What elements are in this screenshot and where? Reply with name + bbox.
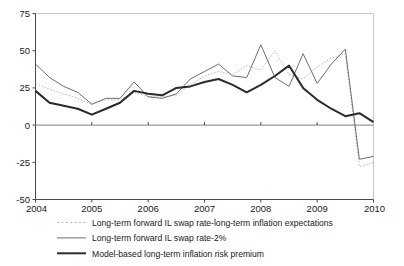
series-line-1 (36, 51, 374, 167)
y-axis: 7550250-25-50 (16, 8, 35, 205)
legend-label-3: Model-based long-term inflation risk pre… (92, 249, 264, 259)
y-tick-label: -25 (16, 157, 30, 168)
legend-label-2: Long-term forward IL swap rate-2% (92, 233, 227, 243)
x-tick-label: 2005 (81, 203, 102, 214)
series-line-2 (36, 45, 374, 160)
y-tick-label: 50 (19, 45, 30, 56)
x-tick-label: 2008 (250, 203, 271, 214)
x-tick-label: 2010 (364, 203, 385, 214)
x-tick-label: 2009 (307, 203, 328, 214)
plot-frame-path (36, 14, 374, 200)
x-tick-label: 2004 (26, 203, 47, 214)
chart-figure: 7550250-25-50 20042005200620072008200920… (0, 0, 404, 266)
x-tick-label: 2007 (194, 203, 215, 214)
legend-label-1: Long-term forward IL swap rate-long-term… (92, 218, 333, 228)
x-tick-labels: 2004200520062007200820092010 (26, 203, 385, 214)
x-axis: 2004200520062007200820092010 (26, 200, 385, 215)
y-tick-labels: 7550250-25-50 (16, 8, 30, 205)
y-tick-label: 75 (19, 8, 30, 19)
y-tick-label: 0 (25, 120, 30, 131)
x-tick-label: 2006 (138, 203, 159, 214)
plot-frame (36, 14, 374, 200)
series-line-3 (36, 66, 374, 123)
chart-legend: Long-term forward IL swap rate-long-term… (57, 218, 333, 259)
zero-reference-line (36, 122, 374, 125)
data-series-group (36, 45, 374, 167)
line-chart: 7550250-25-50 20042005200620072008200920… (0, 0, 404, 266)
y-tick-label: 25 (19, 82, 30, 93)
